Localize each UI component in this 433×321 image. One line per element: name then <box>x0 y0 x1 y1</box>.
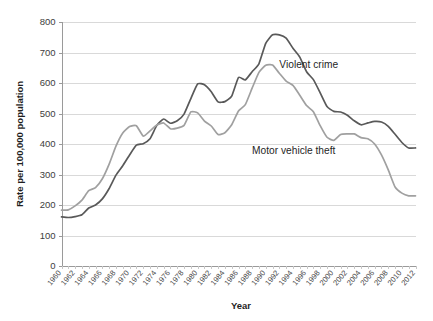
x-tick-label: 1968 <box>100 269 118 288</box>
x-tick-label: 1976 <box>154 269 172 288</box>
y-tick-label: 200 <box>40 199 56 210</box>
x-tick-label: 1998 <box>304 269 322 288</box>
y-tick-label: 800 <box>40 16 56 27</box>
series-line-1 <box>62 34 416 217</box>
y-tick-label: 300 <box>40 169 56 180</box>
x-tick-label: 1992 <box>263 269 281 288</box>
x-tick-label: 2008 <box>372 269 390 288</box>
x-axis-title: Year <box>231 300 251 311</box>
x-tick-label: 1974 <box>141 269 159 288</box>
x-tick-label: 1990 <box>250 269 268 288</box>
x-tick-label: 1962 <box>59 269 77 288</box>
x-tick-label: 1982 <box>195 269 213 288</box>
x-tick-label: 1988 <box>236 269 254 288</box>
x-tick-label: 1996 <box>290 269 308 288</box>
x-tick-label: 2004 <box>345 269 363 288</box>
series-annotation-2: Motor vehicle theft <box>252 145 335 156</box>
y-tick-label: 100 <box>40 230 56 241</box>
x-tick-label: 2002 <box>331 269 349 288</box>
x-tick-label: 1978 <box>168 269 186 288</box>
y-tick-label: 600 <box>40 77 56 88</box>
x-tick-label: 1984 <box>209 269 227 288</box>
y-tick-label: 700 <box>40 47 56 58</box>
x-tick-label: 1994 <box>277 269 295 288</box>
x-tick-label: 1960 <box>45 269 63 288</box>
x-tick-label: 1970 <box>113 269 131 288</box>
x-tick-label: 2012 <box>399 269 417 288</box>
x-tick-label: 1980 <box>181 269 199 288</box>
y-tick-label: 500 <box>40 108 56 119</box>
x-tick-label: 1964 <box>73 269 91 288</box>
crime-rate-line-chart: 0100200300400500600700800196019621964196… <box>0 0 433 321</box>
y-axis-title: Rate per 100,000 population <box>14 81 25 207</box>
series-annotation-1: Violent crime <box>279 59 338 70</box>
x-tick-label: 1966 <box>86 269 104 288</box>
chart-canvas: 0100200300400500600700800196019621964196… <box>0 0 433 321</box>
x-tick-label: 2010 <box>386 269 404 288</box>
x-tick-label: 2006 <box>358 269 376 288</box>
x-tick-label: 1986 <box>222 269 240 288</box>
series-line-2 <box>62 65 416 211</box>
x-tick-label: 1972 <box>127 269 145 288</box>
x-tick-label: 2000 <box>318 269 336 288</box>
y-tick-label: 400 <box>40 138 56 149</box>
